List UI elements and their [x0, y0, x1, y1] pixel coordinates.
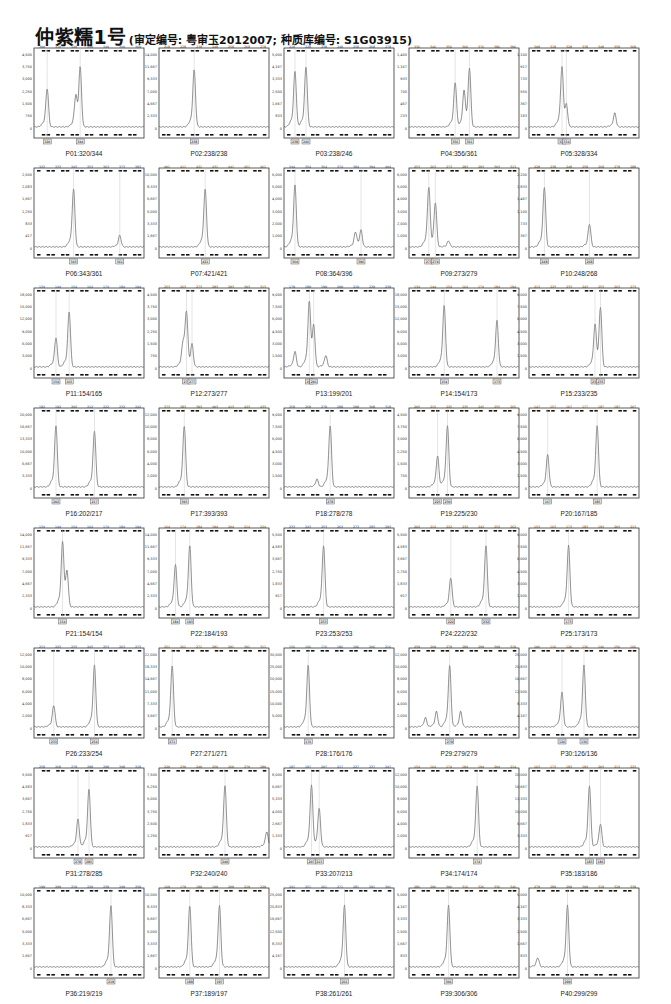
plot-area: 02,0004,0006,0008,00010,00012,0003733833… [145, 404, 273, 510]
svg-text:251: 251 [164, 645, 170, 649]
svg-text:248: 248 [566, 165, 572, 169]
svg-text:2,250: 2,250 [147, 330, 157, 334]
plot-area: 01,5003,0004,5006,0007,5009,000213223233… [515, 284, 643, 390]
svg-text:0: 0 [155, 847, 157, 851]
svg-text:1,467: 1,467 [517, 197, 527, 201]
svg-text:833: 833 [25, 222, 32, 226]
svg-text:5,500: 5,500 [22, 773, 32, 777]
svg-text:339: 339 [630, 885, 636, 889]
svg-text:0: 0 [280, 127, 282, 131]
svg-text:6,000: 6,000 [397, 342, 407, 346]
svg-text:338: 338 [582, 45, 588, 49]
svg-text:423: 423 [244, 405, 250, 409]
svg-text:223: 223 [55, 645, 61, 649]
svg-text:421: 421 [202, 260, 208, 264]
electropherogram-panel: 01,3332,6674,0005,3336,6678,000187197207… [270, 764, 398, 882]
svg-text:5,000: 5,000 [22, 930, 32, 934]
svg-text:9,333: 9,333 [147, 77, 157, 81]
panel-caption: P14:154/173 [395, 390, 523, 397]
svg-text:308: 308 [119, 765, 125, 769]
svg-text:343: 343 [71, 260, 77, 264]
electropherogram-panel: 08331,6672,5003,3334,1675,00021822823824… [270, 44, 398, 162]
svg-text:6,000: 6,000 [397, 173, 407, 177]
svg-text:3,750: 3,750 [397, 425, 407, 429]
svg-text:293: 293 [385, 525, 391, 529]
svg-text:1,667: 1,667 [517, 942, 527, 946]
svg-text:193: 193 [598, 525, 604, 529]
svg-text:12,500: 12,500 [270, 930, 282, 934]
svg-text:393: 393 [181, 500, 187, 504]
svg-text:144: 144 [55, 285, 61, 289]
svg-text:358: 358 [614, 45, 620, 49]
svg-text:134: 134 [414, 285, 420, 289]
svg-text:22,000: 22,000 [145, 653, 157, 657]
electropherogram-panel: 09171,8332,7503,6674,5835,50025826827828… [20, 764, 148, 882]
plot-area: 03,3336,66710,00013,33316,66720,00016317… [515, 764, 643, 870]
svg-text:15,000: 15,000 [395, 305, 407, 309]
plot-area: 03,0006,0009,00012,00015,00018,000134144… [20, 284, 148, 390]
svg-text:196: 196 [353, 645, 359, 649]
svg-text:296: 296 [430, 885, 436, 889]
svg-text:238: 238 [292, 140, 298, 144]
svg-text:14,000: 14,000 [20, 533, 32, 537]
svg-text:238: 238 [196, 45, 202, 49]
svg-text:2,333: 2,333 [147, 594, 157, 598]
svg-text:7,500: 7,500 [272, 425, 282, 429]
svg-text:269: 269 [430, 645, 436, 649]
svg-text:2,750: 2,750 [397, 570, 407, 574]
panel-caption: P22:184/193 [145, 630, 273, 637]
svg-text:238: 238 [550, 165, 556, 169]
svg-text:299: 299 [478, 645, 484, 649]
svg-text:204: 204 [494, 765, 500, 769]
electropherogram-panel: 01,2502,5003,7505,0006,2507,500220230240… [145, 764, 273, 882]
svg-text:224: 224 [260, 525, 266, 529]
svg-text:261: 261 [180, 645, 186, 649]
electropherogram-panel: 07501,5002,2503,0003,7504,50025326327328… [145, 284, 273, 402]
svg-text:9,000: 9,000 [22, 330, 32, 334]
panel-caption: P03:238/246 [270, 150, 398, 157]
svg-text:0: 0 [30, 727, 32, 731]
svg-text:153: 153 [534, 525, 540, 529]
svg-text:733: 733 [520, 222, 527, 226]
svg-text:183: 183 [582, 525, 588, 529]
svg-text:373: 373 [119, 165, 125, 169]
svg-text:367: 367 [520, 234, 527, 238]
svg-text:12,000: 12,000 [395, 653, 407, 657]
svg-text:193: 193 [187, 620, 193, 624]
svg-text:2,200: 2,200 [517, 173, 527, 177]
electropherogram-panel: 01,6673,3335,0006,6678,33310,00040141142… [145, 164, 273, 282]
svg-text:0: 0 [30, 967, 32, 971]
svg-text:144: 144 [430, 285, 436, 289]
svg-text:279: 279 [432, 260, 438, 264]
svg-text:12,000: 12,000 [395, 773, 407, 777]
panel-caption: P05:328/334 [515, 150, 643, 157]
svg-text:258: 258 [228, 45, 234, 49]
plot-area: 08331,6672,5003,3334,1675,00028629630631… [395, 884, 523, 990]
electropherogram-panel: 01,5003,0004,5006,0007,5009,000213223233… [515, 284, 643, 402]
svg-text:833: 833 [400, 954, 407, 958]
electropherogram-panel: 04,1678,33312,50016,66720,83325,00010611… [515, 644, 643, 762]
svg-text:240: 240 [222, 860, 228, 864]
svg-text:3,333: 3,333 [147, 942, 157, 946]
svg-text:344: 344 [289, 165, 295, 169]
svg-text:271: 271 [337, 885, 343, 889]
svg-text:3,750: 3,750 [22, 65, 32, 69]
plot-area: 01,5003,0004,5006,0007,5009,000153163173… [515, 524, 643, 630]
electropherogram-panel: 04178331,2501,6672,0832,5003233333433533… [20, 164, 148, 282]
svg-text:4,000: 4,000 [147, 462, 157, 466]
svg-text:174: 174 [478, 285, 484, 289]
svg-text:253: 253 [103, 645, 109, 649]
plot-area: 07501,5002,2503,0003,7504,50030031032033… [20, 44, 148, 150]
plot-area: 08331,6672,5003,3334,1675,00021822823824… [270, 44, 398, 150]
svg-text:4,167: 4,167 [397, 905, 407, 909]
svg-text:1,000: 1,000 [272, 234, 282, 238]
svg-text:403: 403 [212, 405, 218, 409]
svg-text:9,000: 9,000 [397, 330, 407, 334]
svg-text:184: 184 [462, 765, 468, 769]
svg-text:218: 218 [164, 45, 170, 49]
svg-text:233: 233 [51, 740, 57, 744]
svg-text:6,667: 6,667 [22, 462, 32, 466]
svg-text:0: 0 [30, 127, 32, 131]
svg-text:700: 700 [400, 90, 407, 94]
svg-text:6,000: 6,000 [272, 317, 282, 321]
